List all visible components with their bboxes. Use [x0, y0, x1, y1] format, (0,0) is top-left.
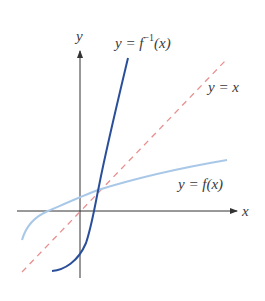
y-axis-label-text: y: [76, 28, 83, 44]
x-axis-label: x: [242, 204, 249, 219]
f-inverse-label-sup: −1: [143, 32, 154, 43]
f-inverse-label: y = f−1(x): [115, 34, 171, 51]
f-inverse-curve: [52, 58, 128, 271]
f-label: y = f(x): [178, 177, 223, 192]
identity-label: y = x: [208, 80, 239, 95]
x-axis-label-text: x: [242, 203, 249, 219]
f-curve: [22, 160, 227, 240]
f-inverse-label-prefix: y = f: [115, 35, 143, 51]
f-inverse-label-suffix: (x): [154, 35, 171, 51]
f-label-text: y = f(x): [178, 176, 223, 192]
identity-label-text: y = x: [208, 79, 239, 95]
y-axis-label: y: [76, 29, 83, 44]
